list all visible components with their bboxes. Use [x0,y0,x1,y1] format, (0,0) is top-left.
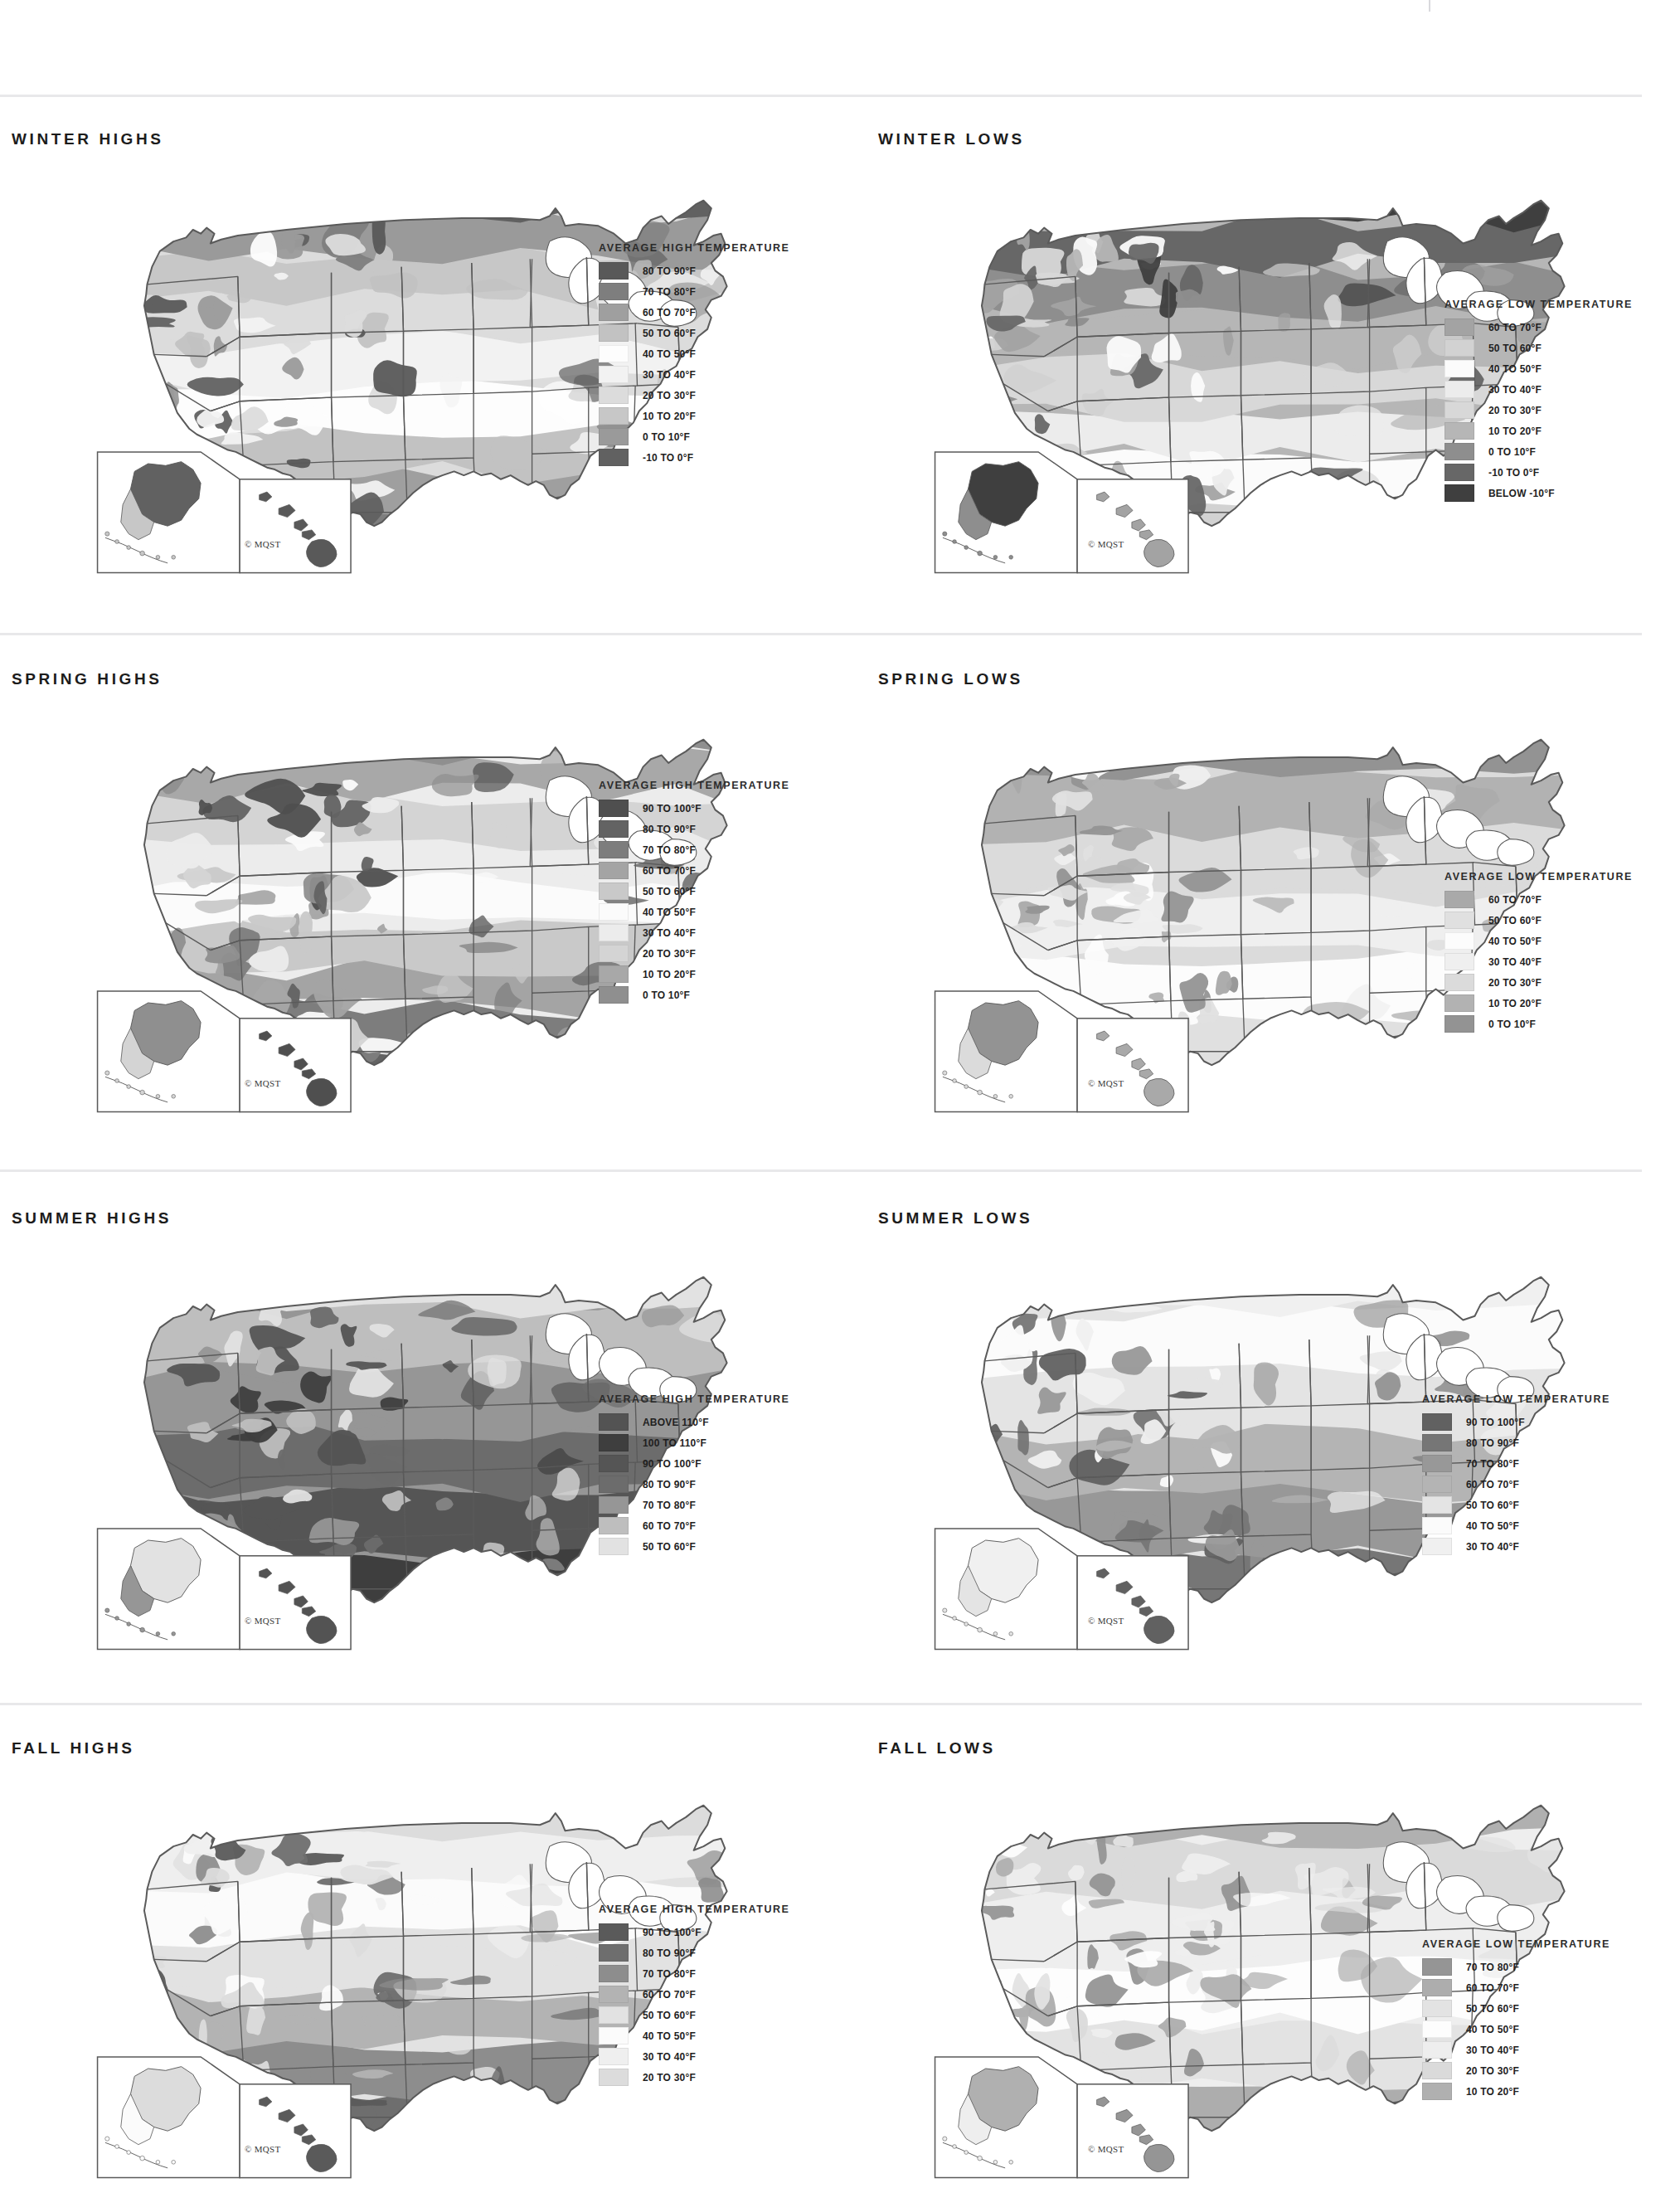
legend-label: 80 TO 90°F [643,1479,696,1490]
legend-swatch [1445,974,1474,991]
legend-swatch [599,841,629,858]
legend-label: 20 TO 30°F [643,2072,696,2083]
legend-swatch [599,2006,629,2024]
legend-swatch [1445,339,1474,357]
legend-row: 80 TO 90°F [599,1943,790,1962]
panel-spring-lows: © MQST AVERAGE LOW TEMPERATURE 60 TO 70°… [846,730,1675,1120]
legend-row: 20 TO 30°F [1445,973,1633,992]
legend-row: 40 TO 50°F [599,2026,790,2045]
legend-label: 90 TO 100°F [1466,1417,1525,1428]
legend-swatch [599,1538,629,1555]
legend-label: 80 TO 90°F [643,1947,696,1959]
legend-label: 30 TO 40°F [643,927,696,939]
legend-title: AVERAGE LOW TEMPERATURE [1445,299,1633,310]
legend-row: 10 TO 20°F [1445,421,1633,440]
legend-label: 70 TO 80°F [1466,1962,1519,1973]
legend-row: 60 TO 70°F [1422,1475,1610,1494]
legend-row: 0 TO 10°F [599,427,790,446]
legend-row: 90 TO 100°F [599,799,790,818]
legend-row: 40 TO 50°F [1422,1516,1610,1535]
legend-row: 30 TO 40°F [1445,380,1633,399]
section-title-winter-lows: WINTER LOWS [878,130,1025,148]
legend-label: 40 TO 50°F [1466,1520,1519,1532]
legend-swatch [599,407,629,425]
legend-label: 0 TO 10°F [643,431,690,443]
legend-swatch [1445,360,1474,377]
legend-label: 20 TO 30°F [643,390,696,401]
legend-label: 50 TO 60°F [643,1541,696,1553]
legend-swatch [599,345,629,362]
legend-winter-lows: AVERAGE LOW TEMPERATURE 60 TO 70°F50 TO … [1445,299,1633,504]
legend-row: 40 TO 50°F [1422,2020,1610,2039]
legend-row: 80 TO 90°F [599,1475,790,1494]
legend-label: -10 TO 0°F [1488,467,1539,479]
legend-swatch [599,324,629,342]
legend-swatch [599,449,629,466]
legend-swatch [1422,2083,1452,2100]
legend-label: 80 TO 90°F [643,265,696,277]
legend-label: 30 TO 40°F [1466,2045,1519,2056]
map-credit-winter-highs: © MQST [245,539,280,549]
legend-row: 0 TO 10°F [599,985,790,1004]
panel-fall-lows: © MQST AVERAGE LOW TEMPERATURE 70 TO 80°… [846,1796,1675,2186]
legend-row: 50 TO 60°F [1422,1495,1610,1515]
legend-label: 60 TO 70°F [643,1989,696,2001]
legend-row: 30 TO 40°F [1445,952,1633,971]
legend-row: 30 TO 40°F [599,923,790,942]
legend-swatch [599,800,629,817]
map-credit-summer-lows: © MQST [1088,1616,1124,1626]
map-credit-winter-lows: © MQST [1088,539,1124,549]
legend-rows: 60 TO 70°F50 TO 60°F40 TO 50°F30 TO 40°F… [1445,318,1633,503]
legend-spring-lows: AVERAGE LOW TEMPERATURE 60 TO 70°F50 TO … [1445,871,1633,1035]
legend-row: 70 TO 80°F [599,840,790,859]
legend-row: 70 TO 80°F [1422,1454,1610,1473]
legend-label: 60 TO 70°F [1488,894,1542,906]
legend-rows: 80 TO 90°F70 TO 80°F60 TO 70°F50 TO 60°F… [599,261,790,467]
legend-label: 0 TO 10°F [1488,446,1536,458]
legend-row: 20 TO 30°F [599,2068,790,2087]
legend-label: 60 TO 70°F [643,1520,696,1532]
legend-swatch [599,262,629,280]
legend-row: 80 TO 90°F [599,819,790,839]
map-credit-spring-lows: © MQST [1088,1078,1124,1088]
legend-label: 40 TO 50°F [643,348,696,360]
legend-swatch [1422,1538,1452,1555]
legend-row: 90 TO 100°F [599,1454,790,1473]
legend-row: ABOVE 110°F [599,1412,790,1432]
legend-row: 0 TO 10°F [1445,1014,1633,1033]
map-credit-fall-lows: © MQST [1088,2144,1124,2154]
legend-label: 30 TO 40°F [1488,384,1542,396]
legend-title: AVERAGE HIGH TEMPERATURE [599,1904,790,1915]
legend-row: 40 TO 50°F [1445,931,1633,951]
legend-swatch [599,1434,629,1451]
panel-summer-lows: © MQST AVERAGE LOW TEMPERATURE 90 TO 100… [846,1267,1675,1657]
legend-swatch [1445,401,1474,419]
legend-swatch [1445,381,1474,398]
legend-label: 20 TO 30°F [1488,405,1542,416]
legend-row: 40 TO 50°F [599,902,790,921]
legend-row: 50 TO 60°F [599,1537,790,1556]
legend-row: BELOW -10°F [1445,484,1633,503]
legend-swatch [1445,994,1474,1012]
panel-fall-highs: © MQST AVERAGE HIGH TEMPERATURE 90 TO 10… [8,1796,838,2186]
legend-label: 50 TO 60°F [1466,2003,1519,2015]
legend-title: AVERAGE HIGH TEMPERATURE [599,242,790,254]
legend-row: 60 TO 70°F [599,861,790,880]
legend-row: 70 TO 80°F [599,282,790,301]
legend-row: 60 TO 70°F [599,1985,790,2004]
legend-row: 90 TO 100°F [1422,1412,1610,1432]
legend-label: 10 TO 20°F [643,411,696,422]
legend-swatch [599,1496,629,1514]
legend-summer-lows: AVERAGE LOW TEMPERATURE 90 TO 100°F80 TO… [1422,1393,1610,1558]
legend-label: 70 TO 80°F [643,286,696,298]
legend-label: 30 TO 40°F [643,369,696,381]
legend-swatch [1445,422,1474,440]
legend-swatch [1445,891,1474,908]
legend-row: 40 TO 50°F [1445,359,1633,378]
legend-label: 90 TO 100°F [643,1458,702,1470]
legend-swatch [1422,1476,1452,1493]
legend-rows: 60 TO 70°F50 TO 60°F40 TO 50°F30 TO 40°F… [1445,890,1633,1033]
legend-swatch [599,387,629,404]
legend-swatch [599,1944,629,1962]
legend-row: 50 TO 60°F [599,323,790,343]
